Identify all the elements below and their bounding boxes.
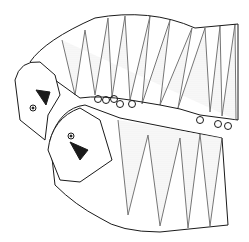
lower-creature [48,105,228,232]
illustration [0,0,249,242]
arthropod-drawing [0,0,249,242]
